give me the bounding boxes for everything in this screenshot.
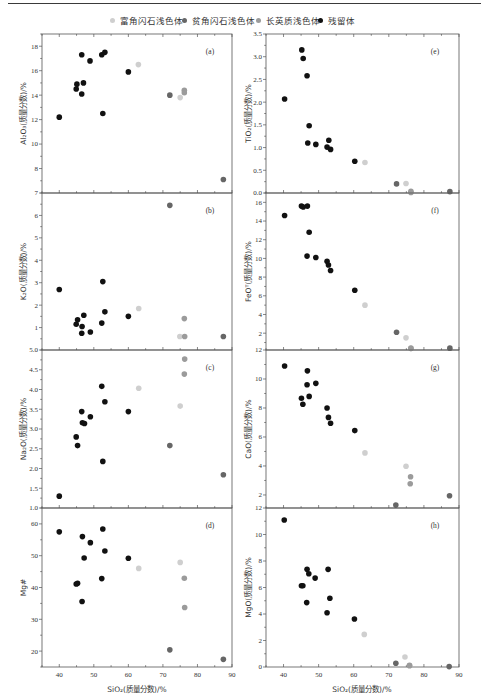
- data-point: [102, 50, 108, 56]
- data-point: [102, 399, 108, 405]
- y-axis-title: K₂O(质量分数)/%: [18, 243, 28, 300]
- panel-g: 24681012CaO(质量分数)/%(g): [243, 346, 459, 508]
- series-富角闪石浅色体: [362, 302, 409, 340]
- data-point: [447, 189, 453, 195]
- panel-h: 024681012405060708090MgO(质量分数)/%(h): [243, 504, 463, 679]
- data-point: [305, 140, 311, 146]
- data-point: [182, 90, 188, 96]
- y-tick-label: 10: [255, 255, 263, 263]
- series-长英质浅色体: [182, 87, 188, 95]
- y-tick-label: 4.5: [29, 366, 38, 374]
- y-tick-label: 3.5: [29, 406, 38, 414]
- y-tick-label: 4.0: [29, 386, 38, 394]
- data-point: [182, 316, 188, 322]
- data-point: [306, 394, 312, 400]
- data-point: [328, 420, 334, 426]
- y-tick-label: 3.5: [253, 30, 262, 38]
- data-point: [99, 384, 105, 390]
- y-tick-label: 18: [31, 43, 39, 51]
- y-tick-label: 30: [31, 616, 39, 624]
- data-point: [352, 287, 358, 293]
- panels-container: 81012141618Al₂O₃(质量分数)/%(a)1234567K₂O(质量…: [18, 30, 463, 679]
- x-tick-label: 40: [280, 671, 288, 679]
- plot-frame: [266, 34, 459, 193]
- data-point: [221, 657, 227, 663]
- series-富角闪石浅色体: [361, 632, 407, 660]
- data-point: [352, 158, 358, 164]
- data-point: [167, 203, 173, 209]
- y-tick-label: 40: [31, 584, 39, 592]
- data-point: [79, 91, 85, 97]
- series-残留体: [56, 50, 131, 120]
- y-tick-label: 8: [35, 165, 39, 173]
- data-point: [326, 262, 332, 268]
- harker-diagram-figure: 81012141618Al₂O₃(质量分数)/%(a)1234567K₂O(质量…: [0, 0, 481, 700]
- data-point: [282, 96, 288, 102]
- data-point: [79, 330, 85, 336]
- x-tick-label: 80: [420, 671, 428, 679]
- panel-tag-label: (g): [431, 363, 440, 372]
- y-tick-label: 10: [255, 531, 263, 539]
- plot-frame: [42, 193, 232, 350]
- x-tick-label: 70: [159, 671, 167, 679]
- data-point: [299, 47, 305, 53]
- y-tick-label: 6: [259, 584, 263, 592]
- data-point: [300, 583, 306, 589]
- data-point: [282, 363, 288, 369]
- data-point: [88, 329, 94, 335]
- y-tick-label: 5.0: [29, 346, 38, 354]
- panel-tag-label: (a): [206, 47, 215, 56]
- data-point: [126, 409, 132, 415]
- data-point: [56, 114, 62, 120]
- data-point: [56, 287, 62, 293]
- data-point: [325, 567, 331, 573]
- data-point: [88, 540, 94, 546]
- data-point: [328, 268, 334, 274]
- data-point: [75, 443, 81, 449]
- y-tick-label: 8: [259, 404, 263, 412]
- data-point: [312, 575, 318, 581]
- data-point: [299, 395, 305, 401]
- series-富角闪石浅色体: [362, 160, 409, 186]
- data-point: [79, 599, 85, 605]
- y-tick-label: 10: [31, 140, 39, 148]
- data-point: [403, 335, 409, 341]
- y-tick-label: 12: [255, 236, 263, 244]
- panel-f: 246810121416FeOᵀ(质量分数)/%(f): [243, 193, 459, 351]
- data-point: [408, 474, 414, 480]
- panel-tag-label: (h): [431, 521, 440, 530]
- data-point: [75, 317, 81, 323]
- series-残留体: [281, 517, 357, 622]
- y-tick-label: 2.5: [29, 445, 38, 453]
- x-tick-label: 50: [90, 671, 98, 679]
- series-富角闪石浅色体: [362, 450, 409, 469]
- series-贫角闪石浅色体: [393, 493, 452, 508]
- y-axis-title: Mg#: [19, 579, 28, 597]
- series-贫角闪石浅色体: [394, 329, 453, 350]
- plot-frame: [42, 508, 232, 667]
- data-point: [136, 386, 142, 392]
- y-tick-label: 2.0: [253, 99, 262, 107]
- series-贫角闪石浅色体: [394, 181, 453, 194]
- data-point: [362, 160, 368, 166]
- series-残留体: [56, 384, 131, 499]
- data-point: [300, 401, 306, 407]
- series-长英质浅色体: [182, 316, 188, 340]
- series-残留体: [282, 47, 358, 164]
- data-point: [56, 529, 62, 535]
- data-point: [393, 502, 399, 508]
- panel-tag-label: (e): [431, 47, 440, 56]
- data-point: [306, 123, 312, 129]
- panel-e: 0.00.51.01.52.02.53.03.5TiO₂(质量分数)/%(e): [243, 30, 459, 197]
- y-tick-label: 7: [35, 189, 39, 197]
- x-axis-title-right: SiO₂(质量分数)/%: [332, 684, 391, 694]
- series-贫角闪石浅色体: [167, 203, 226, 340]
- y-tick-label: 1.5: [253, 121, 262, 129]
- data-point: [327, 595, 333, 601]
- data-point: [324, 610, 330, 616]
- data-point: [304, 382, 310, 388]
- y-tick-label: 8: [259, 557, 263, 565]
- y-axis-title: Na₂O(质量分数)/%: [18, 398, 28, 461]
- y-tick-label: 16: [31, 67, 39, 75]
- series-长英质浅色体: [408, 345, 414, 351]
